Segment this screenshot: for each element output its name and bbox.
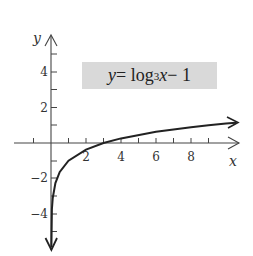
log-function-plot: 2 4 6 8 4 2 −2 −4 x y	[0, 0, 253, 256]
x-tick-label-8: 8	[187, 150, 195, 164]
equation-x: x	[159, 65, 167, 86]
x-tick-label-4: 4	[117, 150, 125, 164]
x-axis	[14, 137, 239, 149]
y-tick-label-2: 2	[40, 101, 48, 115]
x-tick-label-6: 6	[152, 150, 160, 164]
y-tick-label-4: 4	[40, 65, 48, 79]
equation-y: y	[108, 65, 116, 86]
y-tick-label-neg4: −4	[30, 207, 48, 221]
equation-minus-one: − 1	[167, 65, 191, 86]
y-axis-label: y	[32, 30, 42, 46]
y-tick-label-neg2: −2	[30, 171, 48, 185]
x-axis-label: x	[229, 153, 237, 169]
equation-label: y = log 3 x − 1	[82, 62, 217, 89]
equation-log: = log	[116, 65, 154, 86]
